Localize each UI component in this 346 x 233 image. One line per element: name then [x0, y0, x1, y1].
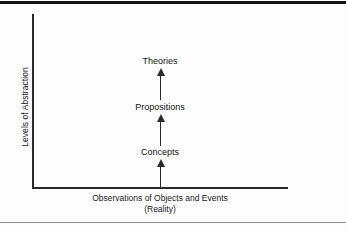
- y-axis-label: Levels of Abstraction: [20, 47, 30, 167]
- arrow-shaft: [160, 74, 162, 100]
- x-axis-label-line1: Observations of Objects and Events: [92, 193, 228, 203]
- level-label-propositions: Propositions: [80, 102, 240, 112]
- page-rule-bottom: [0, 222, 346, 223]
- level-label-concepts: Concepts: [80, 147, 240, 157]
- x-axis-label-line2: (Reality): [32, 204, 288, 215]
- x-axis-label: Observations of Objects and Events (Real…: [32, 193, 288, 214]
- arrow-shaft: [160, 165, 162, 189]
- page-rule-top: [0, 1, 346, 4]
- y-axis-line: [32, 14, 34, 189]
- levels-of-abstraction-figure: Levels of Abstraction Observations of Ob…: [0, 0, 346, 233]
- level-label-theories: Theories: [80, 56, 240, 66]
- arrow-shaft: [160, 120, 162, 146]
